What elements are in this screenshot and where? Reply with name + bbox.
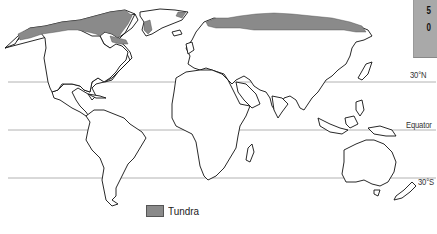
landmass-japan: [358, 62, 372, 80]
latitude-label-30s: 30°S: [418, 177, 434, 187]
adjacent-panel: 5 0: [413, 0, 437, 58]
map-legend: Tundra: [146, 205, 202, 217]
landmass-madagascar: [246, 144, 254, 162]
landmass-tasmania: [374, 190, 380, 196]
legend-label-tundra: Tundra: [168, 205, 199, 217]
landmass-borneo: [345, 116, 358, 128]
landmass-iceland: [172, 30, 182, 36]
landmass-india: [272, 96, 288, 118]
continent-south-america: [86, 110, 146, 206]
landmass-new-zealand: [394, 182, 416, 200]
continent-australia: [342, 140, 396, 186]
panel-value-1: 5: [427, 5, 431, 16]
landmass-philippines: [356, 100, 364, 116]
panel-value-2: 0: [427, 22, 431, 33]
latitude-label-equator: Equator: [406, 120, 432, 130]
latitude-label-30n: 30°N: [410, 70, 426, 80]
landmass-indonesia: [318, 118, 348, 134]
legend-swatch-tundra: [146, 205, 164, 217]
landmass-new-guinea: [368, 126, 396, 136]
